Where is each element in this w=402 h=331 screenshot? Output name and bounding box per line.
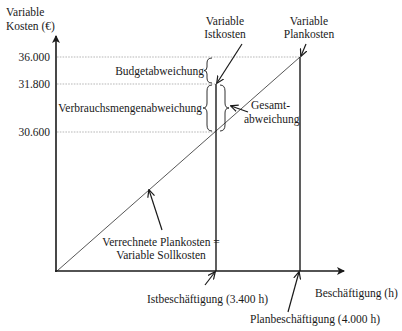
plan-employment-pointer-arrow (288, 272, 299, 312)
y-axis-label-line1: Variable (6, 6, 44, 18)
consumption-variance-brace-icon (203, 85, 212, 131)
budget-variance-brace-icon (204, 58, 212, 83)
sollkosten-label-line1: Verrechnete Plankosten = (102, 236, 220, 248)
total-variance-label-line1: Gesamt- (251, 99, 290, 111)
istkosten-pointer-arrow (217, 44, 242, 83)
ist-employment-label: Istbeschäftigung (3.400 h) (147, 293, 268, 306)
plankosten-pointer-arrow (301, 44, 306, 56)
total-variance-pointer-arrow (231, 106, 248, 112)
total-variance-label-line2: abweichung (244, 113, 300, 126)
total-variance-brace-icon (220, 85, 229, 131)
istkosten-label-line1: Variable (206, 15, 244, 27)
istkosten-label-line2: Istkosten (204, 28, 246, 40)
x-axis-label: Beschäftigung (h) (315, 287, 398, 300)
plan-employment-label: Planbeschäftigung (4.000 h) (250, 313, 380, 326)
y-tick-36000: 36.000 (18, 51, 50, 63)
plankosten-label-line1: Variable (290, 15, 328, 27)
budget-variance-label: Budgetabweichung (115, 65, 204, 78)
cost-variance-diagram: Variable Kosten (€) 36.000 31.800 30.600… (0, 0, 402, 331)
plankosten-label-line2: Plankosten (284, 28, 335, 40)
y-tick-30600: 30.600 (18, 126, 50, 138)
sollkosten-label-line2: Variable Sollkosten (116, 249, 206, 261)
sollkosten-pointer-arrow (149, 190, 162, 230)
ist-employment-pointer-arrow (205, 272, 215, 285)
y-axis-label-line2: Kosten (€) (6, 20, 55, 33)
y-tick-31800: 31.800 (18, 78, 50, 90)
consumption-variance-label: Verbrauchsmengenabweichung (58, 102, 202, 115)
